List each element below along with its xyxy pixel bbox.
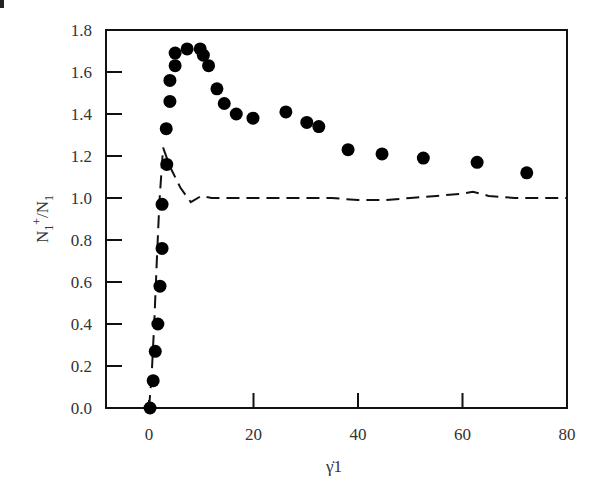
x-tick-label: 0 <box>145 425 154 444</box>
y-tick-label: 0.0 <box>71 399 92 418</box>
data-point <box>147 374 160 387</box>
data-point <box>279 105 292 118</box>
y-tick-label: 1.0 <box>71 189 92 208</box>
data-point <box>153 280 166 293</box>
y-tick-label: 0.4 <box>71 315 93 334</box>
data-point <box>471 156 484 169</box>
data-point <box>163 74 176 87</box>
data-point <box>160 122 173 135</box>
data-point <box>342 143 355 156</box>
data-point <box>218 97 231 110</box>
data-point <box>202 59 215 72</box>
data-point <box>169 47 182 60</box>
data-point <box>181 42 194 55</box>
data-point <box>151 318 164 331</box>
data-point <box>312 120 325 133</box>
y-axis-label: N1+/N1 <box>30 195 56 243</box>
x-axis-label: γ̇1 <box>325 457 342 476</box>
x-tick-label: 20 <box>245 425 262 444</box>
data-point <box>156 198 169 211</box>
data-point <box>149 345 162 358</box>
y-tick-label: 0.8 <box>71 231 92 250</box>
data-point <box>210 82 223 95</box>
y-tick-label: 1.2 <box>71 147 92 166</box>
x-tick-label: 40 <box>350 425 367 444</box>
y-axis-ticks: 0.00.20.40.60.81.01.21.41.61.8 <box>71 21 122 418</box>
data-point <box>169 59 182 72</box>
y-tick-label: 0.2 <box>71 357 92 376</box>
measured-points <box>144 42 534 414</box>
y-tick-label: 1.6 <box>71 63 92 82</box>
x-tick-label: 80 <box>559 425 576 444</box>
data-point <box>300 116 313 129</box>
data-point <box>376 147 389 160</box>
data-point <box>417 152 430 165</box>
data-point <box>160 158 173 171</box>
data-point <box>144 402 157 415</box>
plot-frame <box>106 30 567 408</box>
data-point <box>246 112 259 125</box>
data-point <box>230 108 243 121</box>
y-tick-label: 1.4 <box>71 105 93 124</box>
x-tick-label: 60 <box>454 425 471 444</box>
data-point <box>156 242 169 255</box>
x-axis-ticks: 020406080 <box>145 393 576 444</box>
data-point <box>163 95 176 108</box>
data-point <box>520 166 533 179</box>
y-tick-label: 1.8 <box>71 21 92 40</box>
svg-text:N1+/N1: N1+/N1 <box>30 195 56 243</box>
chart: 0.00.20.40.60.81.01.21.41.61.8 020406080… <box>0 0 600 493</box>
model-dashed-line <box>149 148 567 408</box>
y-tick-label: 0.6 <box>71 273 92 292</box>
